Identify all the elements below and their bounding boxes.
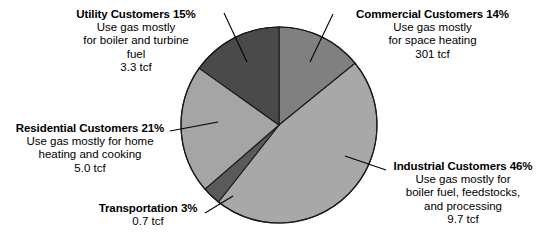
slice-label-utility-line3: fuel: [36, 48, 236, 61]
slice-label-utility-line2: for boiler and turbine: [36, 34, 236, 47]
slice-label-utility-heading: Utility Customers 15%: [36, 8, 236, 21]
slice-label-transportation-heading: Transportation 3%: [88, 202, 208, 215]
slice-label-residential-line1: Use gas mostly for home: [2, 135, 178, 148]
slice-label-commercial-line1: Use gas mostly: [330, 21, 535, 34]
slice-label-residential: Residential Customers 21% Use gas mostly…: [2, 122, 178, 175]
slice-label-industrial-line2: boiler fuel, feedstocks,: [388, 186, 538, 199]
slice-label-residential-value: 5.0 tcf: [2, 162, 178, 175]
slice-label-transportation: Transportation 3% 0.7 tcf: [88, 202, 208, 228]
slice-label-industrial: Industrial Customers 46% Use gas mostly …: [388, 160, 538, 226]
slice-label-industrial-line3: and processing: [388, 200, 538, 213]
slice-label-industrial-value: 9.7 tcf: [388, 213, 538, 226]
slice-label-industrial-heading: Industrial Customers 46%: [388, 160, 538, 173]
slice-label-residential-heading: Residential Customers 21%: [2, 122, 178, 135]
slice-label-utility-line1: Use gas mostly: [36, 21, 236, 34]
pie-chart-figure: Utility Customers 15% Use gas mostly for…: [0, 0, 539, 238]
slice-label-commercial-value: 301 tcf: [330, 48, 535, 61]
slice-label-utility-value: 3.3 tcf: [36, 61, 236, 74]
slice-label-commercial-line2: for space heating: [330, 34, 535, 47]
slice-label-industrial-line1: Use gas mostly for: [388, 173, 538, 186]
slice-label-residential-line2: heating and cooking: [2, 148, 178, 161]
slice-label-commercial: Commercial Customers 14% Use gas mostly …: [330, 8, 535, 61]
slice-label-transportation-value: 0.7 tcf: [88, 215, 208, 228]
slice-label-utility: Utility Customers 15% Use gas mostly for…: [36, 8, 236, 74]
slice-label-commercial-heading: Commercial Customers 14%: [330, 8, 535, 21]
